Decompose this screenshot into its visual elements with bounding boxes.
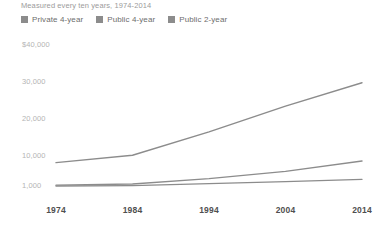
y-axis-tick-label: 20,000: [22, 114, 46, 123]
x-axis-tick-label: 1974: [31, 205, 81, 215]
x-axis-tick-label: 2014: [337, 205, 382, 215]
series-line: [56, 83, 362, 163]
y-axis-tick-label: 1,000: [22, 181, 41, 190]
plot-area: [0, 0, 382, 231]
series-line: [56, 161, 362, 185]
x-axis-tick-label: 2004: [261, 205, 311, 215]
x-axis-tick-label: 1994: [184, 205, 234, 215]
y-axis-tick-label: 30,000: [22, 77, 46, 86]
y-axis-tick-label: $40,000: [22, 40, 50, 49]
plot-svg: [0, 0, 382, 231]
line-chart: Measured every ten years, 1974-2014 Priv…: [0, 0, 382, 231]
y-axis-tick-label: 10,000: [22, 151, 46, 160]
x-axis-tick-label: 1984: [108, 205, 158, 215]
